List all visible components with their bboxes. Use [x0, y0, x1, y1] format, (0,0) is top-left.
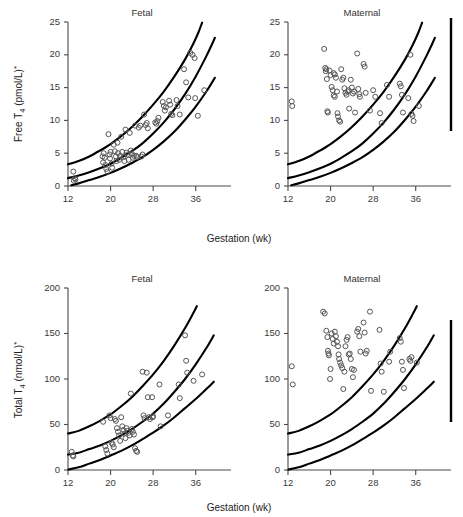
data-point: [348, 77, 353, 82]
data-point: [322, 46, 327, 51]
data-point: [371, 88, 376, 93]
y-tick-label-free-t4-fetal-25: 25: [49, 16, 60, 27]
data-point: [369, 388, 374, 393]
data-point: [379, 369, 384, 374]
data-point: [357, 334, 362, 339]
x-axis-title-top: Gestation (wk): [207, 233, 271, 244]
y-tick-label-total-t4-fetal-50: 50: [49, 418, 60, 429]
data-point: [177, 396, 182, 401]
centile-curve-lower-centile-free-t4-fetal: [71, 78, 215, 186]
y-tick-label-free-t4-fetal-5: 5: [55, 147, 60, 158]
data-point: [156, 115, 161, 120]
data-point: [157, 382, 162, 387]
data-point: [358, 349, 363, 354]
data-point: [186, 95, 191, 100]
data-point: [106, 132, 111, 137]
data-point: [177, 112, 182, 117]
y-tick-label-total-t4-fetal-150: 150: [44, 327, 60, 338]
x-tick-label-total-t4-fetal-20: 20: [105, 477, 116, 488]
x-tick-label-total-t4-fetal-36: 36: [190, 477, 201, 488]
data-point: [378, 111, 383, 116]
data-point: [119, 415, 124, 420]
y-tick-label-free-t4-maternal-15: 15: [269, 81, 280, 92]
panel-total-t4-maternal: Maternal05010015020012202836: [264, 273, 451, 488]
data-point: [128, 391, 133, 396]
data-point: [363, 90, 368, 95]
x-tick-label-total-t4-maternal-28: 28: [368, 477, 379, 488]
x-tick-label-free-t4-maternal-28: 28: [368, 193, 379, 204]
figure-container: Fetal051015202512202836Maternal051015202…: [0, 0, 463, 517]
y-tick-label-total-t4-maternal-150: 150: [264, 327, 280, 338]
x-tick-label-total-t4-fetal-28: 28: [148, 477, 159, 488]
x-tick-label-total-t4-maternal-36: 36: [410, 477, 421, 488]
y-tick-label-free-t4-maternal-25: 25: [269, 16, 280, 27]
x-tick-label-total-t4-maternal-20: 20: [325, 477, 336, 488]
centile-curve-upper-centile-free-t4-fetal: [68, 23, 202, 165]
y-tick-label-free-t4-maternal-20: 20: [269, 48, 280, 59]
data-point: [348, 356, 353, 361]
y-axis-title-bottom: Total T4 (nmol/L)*: [12, 342, 27, 419]
x-tick-label-free-t4-maternal-20: 20: [325, 193, 336, 204]
x-tick-label-free-t4-maternal-12: 12: [283, 193, 294, 204]
data-point: [387, 94, 392, 99]
data-point: [402, 386, 407, 391]
data-point: [290, 382, 295, 387]
data-point: [338, 119, 343, 124]
data-point: [356, 86, 361, 91]
y-tick-label-free-t4-maternal-5: 5: [275, 147, 280, 158]
data-point: [355, 51, 360, 56]
data-point: [193, 96, 198, 101]
data-point: [339, 67, 344, 72]
panel-title-free-t4-fetal: Fetal: [131, 7, 152, 18]
data-point: [71, 169, 76, 174]
data-point: [325, 335, 330, 340]
data-point: [118, 438, 123, 443]
data-point: [381, 389, 386, 394]
data-point: [400, 110, 405, 115]
data-point: [191, 378, 196, 383]
data-point: [200, 372, 205, 377]
figure-svg: Fetal051015202512202836Maternal051015202…: [0, 0, 463, 517]
data-point: [411, 119, 416, 124]
y-tick-label-total-t4-fetal-0: 0: [55, 464, 60, 475]
panel-free-t4-maternal: Maternal051015202512202836: [269, 7, 451, 204]
data-point: [166, 413, 171, 418]
x-axis-title-bottom: Gestation (wk): [207, 502, 271, 513]
data-point: [362, 330, 367, 335]
data-point: [328, 366, 333, 371]
data-point: [347, 106, 352, 111]
data-point: [350, 375, 355, 380]
data-point: [324, 328, 329, 333]
y-tick-label-free-t4-maternal-10: 10: [269, 114, 280, 125]
y-tick-label-total-t4-fetal-100: 100: [44, 373, 60, 384]
data-point: [184, 358, 189, 363]
x-tick-label-free-t4-maternal-36: 36: [410, 193, 421, 204]
data-point: [182, 67, 187, 72]
axes-lines-free-t4-maternal: [288, 22, 451, 186]
data-point: [400, 367, 405, 372]
data-point: [183, 333, 188, 338]
data-point: [341, 387, 346, 392]
y-tick-label-total-t4-fetal-200: 200: [44, 282, 60, 293]
panel-title-free-t4-maternal: Maternal: [344, 7, 381, 18]
centile-curve-median-centile-total-t4-fetal: [68, 335, 214, 454]
data-point: [332, 94, 337, 99]
data-point: [373, 94, 378, 99]
y-tick-label-free-t4-fetal-0: 0: [55, 180, 60, 191]
axes-lines-free-t4-fetal: [68, 22, 231, 186]
data-point: [399, 359, 404, 364]
x-tick-label-total-t4-maternal-12: 12: [283, 477, 294, 488]
data-point: [361, 320, 366, 325]
data-point: [289, 364, 294, 369]
y-tick-label-free-t4-maternal-0: 0: [275, 180, 280, 191]
panel-title-total-t4-fetal: Fetal: [131, 273, 152, 284]
data-point: [333, 75, 338, 80]
y-tick-label-total-t4-maternal-200: 200: [264, 282, 280, 293]
data-point: [174, 98, 179, 103]
y-tick-label-free-t4-fetal-20: 20: [49, 48, 60, 59]
data-point: [162, 108, 167, 113]
data-point: [377, 327, 382, 332]
x-tick-label-free-t4-fetal-28: 28: [148, 193, 159, 204]
y-axis-title-top: Free T4 (pmol/L)*: [12, 66, 27, 142]
x-tick-label-free-t4-fetal-20: 20: [105, 193, 116, 204]
